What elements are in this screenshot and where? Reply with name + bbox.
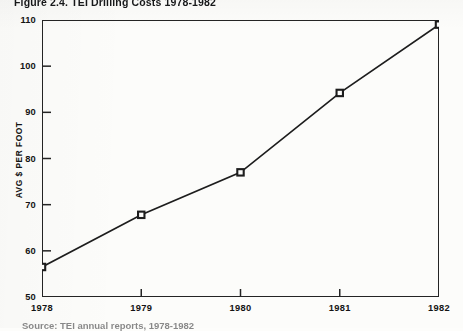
y-tick-label: 110: [6, 15, 36, 25]
x-axis-ticks: [42, 289, 439, 297]
y-axis-tick-labels: 5060708090100110: [0, 0, 36, 328]
x-tick-label: 1981: [329, 303, 351, 313]
y-tick-label: 90: [6, 107, 36, 117]
y-tick-label: 80: [6, 154, 36, 164]
y-tick-label: 70: [6, 200, 36, 210]
figure-title: Figure 2.4. TEI Drilling Costs 1978-1982: [14, 0, 216, 8]
y-tick-label: 50: [6, 292, 36, 302]
data-line-series: [42, 25, 439, 267]
x-tick-label: 1982: [428, 303, 450, 313]
data-point-marker: [138, 212, 144, 218]
data-point-marker: [436, 21, 439, 27]
data-point-markers: [42, 21, 439, 270]
chart-plot-area: [42, 20, 439, 297]
y-tick-label: 100: [6, 61, 36, 71]
data-point-marker: [237, 169, 243, 175]
figure-caption: Source: TEI annual reports, 1978-1982: [22, 320, 194, 331]
y-tick-label: 60: [6, 246, 36, 256]
y-axis-ticks: [42, 20, 51, 297]
x-tick-label: 1979: [130, 303, 152, 313]
data-point-marker: [42, 264, 45, 270]
x-tick-label: 1978: [31, 303, 53, 313]
data-point-marker: [337, 90, 343, 96]
x-tick-label: 1980: [230, 303, 252, 313]
